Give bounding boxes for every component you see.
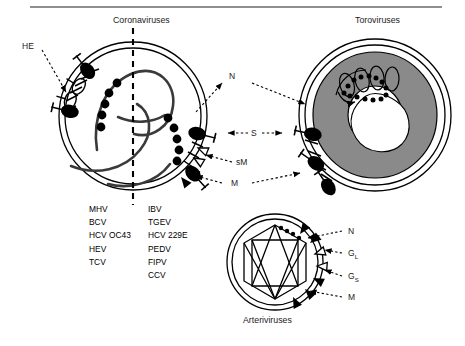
virus-name-right-item: TGEV <box>148 216 188 229</box>
label-arterivirus-n: N <box>348 226 354 236</box>
arterivirus-particle <box>227 214 342 310</box>
virus-name-left-item: HEV <box>89 243 131 256</box>
label-sm: sM <box>236 157 247 167</box>
label-n: N <box>229 71 235 81</box>
coronavirus-nucleocapsid <box>71 71 173 186</box>
virus-list-left-column: MHVBCVHCV OC43HEVTCV <box>89 203 131 269</box>
virus-list-right-column: IBVTGEVHCV 229EPEDVFIPVCCV <box>148 203 188 282</box>
he-pointer-arrow <box>42 50 66 92</box>
label-m: M <box>231 178 238 188</box>
coronavirus-he-spikes <box>54 71 88 110</box>
label-he: HE <box>22 41 34 51</box>
label-arterivirus-gs: GS <box>348 271 359 285</box>
virus-name-left-item: BCV <box>89 216 131 229</box>
diagram-canvas <box>0 0 465 346</box>
virus-name-right-item: FIPV <box>148 256 188 269</box>
virus-name-right-item: PEDV <box>148 243 188 256</box>
coronavirus-n-protein-beads-left <box>97 79 122 132</box>
virus-name-right-item: HCV 229E <box>148 229 188 242</box>
arterivirus-capsid <box>244 225 306 299</box>
coronavirus-n-protein-beads-right <box>164 114 184 166</box>
virus-name-left-item: MHV <box>89 203 131 216</box>
virus-name-right-item: CCV <box>148 269 188 282</box>
panel-title-coronaviruses: Coronaviruses <box>113 15 170 25</box>
panel-title-toroviruses: Toroviruses <box>355 15 400 25</box>
label-arterivirus-gs-main: G <box>348 271 355 281</box>
virus-name-left-item: TCV <box>89 256 131 269</box>
label-arterivirus-gl: GL <box>348 248 358 262</box>
virus-structure-figure: Coronaviruses Toroviruses Arteriviruses … <box>0 0 465 346</box>
virus-name-right-item: IBV <box>148 203 188 216</box>
label-arterivirus-gl-main: G <box>348 248 355 258</box>
virus-name-left-item: HCV OC43 <box>89 229 131 242</box>
label-arterivirus-gs-sub: S <box>355 276 359 283</box>
panel-title-arteriviruses: Arteriviruses <box>243 315 292 325</box>
label-arterivirus-m: M <box>348 292 355 302</box>
torovirus-particle <box>293 39 451 198</box>
label-arterivirus-gl-sub: L <box>355 253 358 260</box>
label-s: S <box>251 128 257 138</box>
coronavirus-particle <box>50 28 217 205</box>
